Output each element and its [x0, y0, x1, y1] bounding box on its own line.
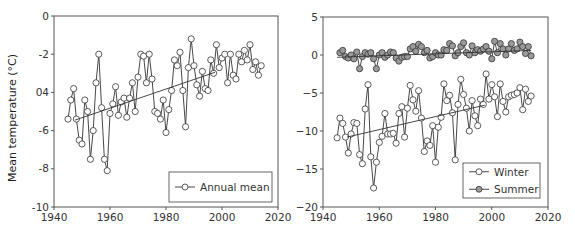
y-tick-label: 0	[311, 49, 318, 61]
y-tick-label: −5	[303, 87, 318, 99]
data-point	[373, 159, 379, 165]
data-point	[216, 65, 222, 71]
legend: WinterSummer	[463, 163, 540, 198]
data-point	[174, 63, 180, 69]
data-point	[413, 48, 419, 54]
x-tick-label: 2020	[535, 211, 562, 223]
data-point	[180, 87, 186, 93]
data-point	[233, 76, 239, 82]
data-point	[508, 41, 514, 47]
data-point	[418, 44, 424, 50]
x-tick-label: 2000	[478, 211, 505, 223]
data-point	[258, 63, 264, 69]
data-point	[132, 108, 138, 114]
data-point	[79, 141, 85, 147]
x-tick-label: 1960	[366, 211, 393, 223]
series-line	[68, 39, 261, 171]
annual-mean-chart: 194019601980200020200-204-6-8-10Annual m…	[32, 10, 292, 224]
data-point	[441, 81, 447, 87]
data-point	[458, 76, 464, 82]
data-point	[253, 59, 259, 65]
data-point	[452, 157, 458, 163]
data-point	[227, 51, 233, 57]
y-tick-label: 5	[311, 11, 318, 23]
data-point	[427, 142, 433, 148]
data-point	[183, 124, 189, 130]
data-point	[65, 116, 71, 122]
data-point	[82, 97, 88, 103]
y-tick-label: −20	[296, 201, 318, 213]
data-point	[197, 93, 203, 99]
y-tick-label: -2	[39, 48, 49, 60]
y-tick-label: −10	[296, 125, 318, 137]
data-point	[93, 80, 99, 86]
data-point	[368, 154, 374, 160]
data-point	[171, 57, 177, 63]
data-point	[455, 101, 461, 107]
data-point	[390, 130, 396, 136]
data-point	[194, 82, 200, 88]
data-point	[365, 82, 371, 88]
data-point	[354, 120, 360, 126]
data-point	[225, 80, 231, 86]
data-point	[188, 36, 194, 42]
data-point	[520, 107, 526, 113]
data-point	[255, 72, 261, 78]
data-point	[177, 49, 183, 55]
data-point	[410, 97, 416, 103]
data-point	[522, 86, 528, 92]
data-point	[503, 109, 509, 115]
data-point	[472, 113, 478, 119]
data-point	[149, 76, 155, 82]
data-point	[359, 161, 365, 167]
data-point	[166, 107, 172, 113]
data-point	[528, 93, 534, 99]
figure: 194019601980200020200-204-6-8-10Annual m…	[0, 0, 575, 235]
data-point	[393, 140, 399, 146]
data-point	[104, 168, 110, 174]
data-point	[528, 53, 534, 59]
legend-label: Summer	[494, 183, 539, 195]
data-point	[486, 96, 492, 102]
data-point	[71, 86, 77, 92]
data-point	[163, 129, 169, 135]
x-tick-label: 1940	[310, 211, 337, 223]
data-point	[373, 66, 379, 72]
data-point	[396, 110, 402, 116]
x-axis: 19401960198020002020	[310, 207, 562, 223]
y-tick-label: −15	[296, 163, 318, 175]
data-point	[107, 110, 113, 116]
data-point	[424, 47, 430, 53]
open-circle-icon	[476, 169, 482, 175]
data-point	[357, 152, 363, 158]
series-annual-mean	[65, 36, 264, 174]
data-point	[334, 135, 340, 141]
data-point	[494, 50, 500, 56]
data-point	[146, 51, 152, 57]
data-point	[492, 94, 498, 100]
data-point	[96, 51, 102, 57]
legend-label: Winter	[494, 166, 529, 178]
data-point	[236, 51, 242, 57]
data-point	[191, 63, 197, 69]
data-point	[241, 47, 247, 53]
data-point	[340, 120, 346, 126]
data-point	[525, 44, 531, 50]
data-point	[413, 108, 419, 114]
x-tick-label: 1980	[422, 211, 449, 223]
data-point	[376, 139, 382, 145]
data-point	[247, 42, 253, 48]
x-axis: 19401960198020002020	[41, 207, 292, 223]
data-point	[143, 80, 149, 86]
filled-circle-icon	[476, 186, 482, 192]
data-point	[489, 56, 495, 62]
data-point	[345, 150, 351, 156]
data-point	[135, 74, 141, 80]
data-point	[503, 52, 509, 58]
data-point	[199, 68, 205, 74]
data-point	[87, 156, 93, 162]
y-tick-label: -6	[39, 124, 50, 136]
data-point	[250, 66, 256, 72]
data-point	[101, 156, 107, 162]
y-tick-label: 04	[36, 86, 50, 98]
